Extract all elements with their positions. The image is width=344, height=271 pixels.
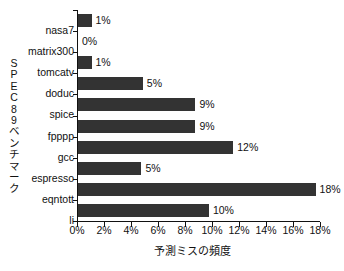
bar-fpppp <box>78 120 195 133</box>
y-axis-tick <box>73 200 77 201</box>
category-label-li: li <box>20 215 74 226</box>
bar-espresso <box>78 162 141 175</box>
y-axis-tick <box>73 179 77 180</box>
bar-doduc <box>78 77 143 90</box>
bar-tomcatv <box>78 56 92 69</box>
x-axis-tick-labels: 0%2%4%6%8%10%12%14%16%18% <box>77 224 344 238</box>
category-label-nasa7: nasa7 <box>20 25 74 36</box>
category-label-doduc: doduc <box>20 88 74 99</box>
bar-value-doduc: 5% <box>147 78 162 89</box>
category-label-gcc: gcc <box>20 152 74 163</box>
y-axis-tick <box>73 52 77 53</box>
y-axis-tick <box>73 116 77 117</box>
bar-gcc <box>78 141 233 154</box>
y-axis-tick <box>73 10 77 11</box>
x-axis-tick-label: 16% <box>282 224 303 236</box>
x-axis-tick-label: 10% <box>201 224 222 236</box>
bar-value-nasa7: 1% <box>96 15 111 26</box>
bar-nasa7 <box>78 14 92 27</box>
x-axis-tick-label: 4% <box>123 224 138 236</box>
bar-eqntott <box>78 183 316 196</box>
category-label-espresso: espresso <box>20 173 74 184</box>
category-label-column: nasa7matrix300tomcatvdoducspicefppppgcce… <box>20 10 74 221</box>
x-axis-tick-label: 12% <box>228 224 249 236</box>
x-axis-tick-label: 8% <box>177 224 192 236</box>
x-axis-line <box>77 221 320 222</box>
category-label-fpppp: fpppp <box>20 131 74 142</box>
bar-spice <box>78 98 195 111</box>
y-axis-tick <box>73 31 77 32</box>
bar-value-tomcatv: 1% <box>96 57 111 68</box>
x-axis-tick-label: 6% <box>150 224 165 236</box>
y-axis-tick <box>73 73 77 74</box>
bar-value-eqntott: 18% <box>320 184 341 195</box>
bar-li <box>78 204 209 217</box>
x-axis-tick-label: 14% <box>255 224 276 236</box>
bar-chart: SPEC89ベンチマーク nasa7matrix300tomcatvdoducs… <box>0 0 344 271</box>
x-axis-tick-label: 2% <box>96 224 111 236</box>
category-label-spice: spice <box>20 109 74 120</box>
category-label-tomcatv: tomcatv <box>20 67 74 78</box>
bar-value-fpppp: 9% <box>199 121 214 132</box>
plot-area: 1%0%1%5%9%9%12%5%18%10% <box>77 10 320 221</box>
x-axis-tick-label: 18% <box>309 224 330 236</box>
y-axis-tick <box>73 94 77 95</box>
bar-value-li: 10% <box>213 205 234 216</box>
y-axis-tick <box>73 158 77 159</box>
x-axis-tick-label: 0% <box>69 224 84 236</box>
bar-value-gcc: 12% <box>237 142 258 153</box>
bar-value-matrix300: 0% <box>82 36 97 47</box>
bar-value-espresso: 5% <box>145 163 160 174</box>
x-axis-title: 予測ミスの頻度 <box>0 245 344 258</box>
category-label-eqntott: eqntott <box>20 194 74 205</box>
y-axis-tick <box>73 137 77 138</box>
category-label-matrix300: matrix300 <box>20 46 74 57</box>
bar-value-spice: 9% <box>199 99 214 110</box>
